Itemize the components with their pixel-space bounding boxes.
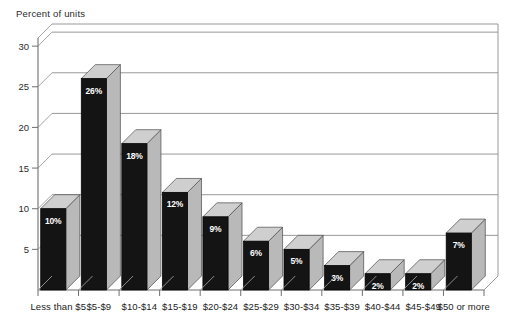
y-tick-label: 15 <box>18 163 29 174</box>
x-axis-labels: Less than $5$5-$9$10-$14$15-$19$20-$24$2… <box>30 301 489 312</box>
x-axis-category-label: $15-$19 <box>162 301 198 312</box>
y-tick-label: 30 <box>18 41 29 52</box>
bar-value-label: 3% <box>331 273 344 283</box>
bar: 6% <box>243 227 282 290</box>
bar: 26% <box>81 65 120 290</box>
bar-value-label: 5% <box>291 256 304 266</box>
x-axis-category-label: $25-$29 <box>243 301 279 312</box>
bar: 3% <box>325 252 364 290</box>
y-tick-label: 25 <box>18 81 29 92</box>
bar: 2% <box>365 260 404 291</box>
bar-value-label: 26% <box>86 86 103 96</box>
bar-value-label: 2% <box>412 281 425 291</box>
x-axis-category-label: $50 or more <box>438 301 490 312</box>
x-axis-category-label: $20-$24 <box>203 301 239 312</box>
x-axis-category-label: Less than $5 <box>30 301 86 312</box>
bar: 7% <box>446 219 485 290</box>
y-tick-label: 20 <box>18 122 29 133</box>
y-axis-ticks: 51015202530 <box>18 41 38 255</box>
x-axis-category-label: $5-$9 <box>86 301 111 312</box>
x-axis-category-label: $40-$44 <box>365 301 401 312</box>
x-axis-category-label: $45-$49 <box>405 301 441 312</box>
y-tick-label: 5 <box>24 244 29 255</box>
bar: 9% <box>203 203 242 290</box>
bar: 2% <box>406 260 445 291</box>
bar-value-label: 10% <box>45 216 62 226</box>
chart-canvas: 51015202530 7%2%2%3%5%6%9%12%18%26%10% L… <box>0 0 512 332</box>
bar-value-label: 2% <box>372 281 385 291</box>
x-axis-category-label: $10-$14 <box>122 301 158 312</box>
bars: 7%2%2%3%5%6%9%12%18%26%10% <box>41 65 486 291</box>
bar-value-label: 6% <box>250 248 263 258</box>
bar: 12% <box>162 178 201 290</box>
bar: 10% <box>41 195 80 290</box>
x-axis-category-label: $30-$34 <box>284 301 320 312</box>
bar-value-label: 12% <box>167 199 184 209</box>
bar-value-label: 18% <box>126 151 143 161</box>
bar-value-label: 7% <box>453 240 466 250</box>
bar-value-label: 9% <box>210 224 223 234</box>
bar-chart: Percent of units 51015202530 7%2%2%3%5%6… <box>0 0 512 332</box>
y-tick-label: 10 <box>18 203 29 214</box>
x-axis-category-label: $35-$39 <box>324 301 360 312</box>
bar: 18% <box>122 130 161 290</box>
